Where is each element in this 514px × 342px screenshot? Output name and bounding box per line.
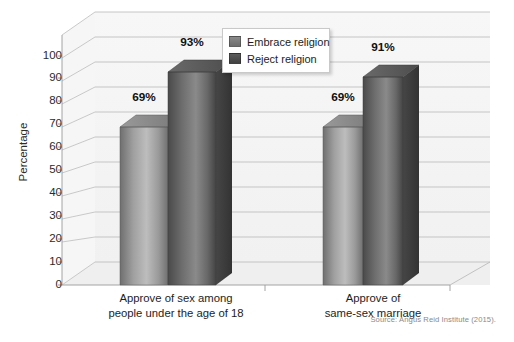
y-tick-20: 20 [49,233,62,245]
bar-group2-reject-religion [363,65,419,285]
y-tick-100: 100 [43,50,62,62]
y-tick-70: 70 [49,118,62,130]
y-tick-60: 60 [49,141,62,153]
value-label-group1-reject: 93% [166,35,218,49]
y-tick-0: 0 [56,279,62,291]
chart-legend: Embrace religion Reject religion [222,28,330,73]
legend-label-reject-religion: Reject religion [247,53,317,65]
bar-chart-figure: 100 90 80 70 60 50 40 30 20 10 0 Percent… [0,0,514,342]
value-label-group2-embrace: 69% [317,90,369,104]
legend-item-embrace-religion[interactable]: Embrace religion [229,33,324,50]
legend-swatch-reject-religion [229,53,241,64]
y-tick-90: 90 [49,72,62,84]
category-label-2-line1: Approve of [293,291,453,306]
legend-label-embrace-religion: Embrace religion [247,36,330,48]
value-label-group2-reject: 91% [357,40,409,54]
category-label-1: Approve of sex among people under the ag… [76,291,276,322]
legend-item-reject-religion[interactable]: Reject religion [229,50,324,67]
y-tick-10: 10 [49,256,62,268]
y-axis-title: Percentage [17,97,29,207]
source-attribution: Source: Angus Reid Institute (2015). [370,315,496,324]
y-axis-tick-labels: 100 90 80 70 60 50 40 30 20 10 0 [26,0,62,342]
bar-group1-reject-religion [168,60,232,285]
plot-left-wall [62,12,95,285]
y-tick-30: 30 [49,210,62,222]
legend-swatch-embrace-religion [229,36,241,47]
y-tick-40: 40 [49,187,62,199]
category-label-1-line1: Approve of sex among [76,291,276,306]
y-tick-80: 80 [49,95,62,107]
value-label-group1-embrace: 69% [118,90,170,104]
category-label-1-line2: people under the age of 18 [76,306,276,321]
y-tick-50: 50 [49,164,62,176]
